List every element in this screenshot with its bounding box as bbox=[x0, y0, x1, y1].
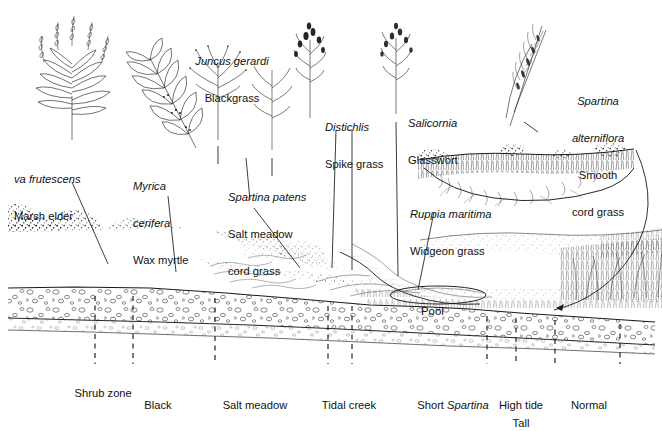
zone-line: Tall bbox=[492, 417, 550, 430]
plant-label-widgeon-grass: Ruppia maritima Widgeon grass bbox=[410, 183, 491, 282]
plant-scientific-name: Ruppia maritima bbox=[410, 208, 491, 220]
zone-label-salt-meadow-cordgrass: Salt meadow cordgrass bbox=[203, 374, 307, 431]
zone-line: Tidal creek bbox=[306, 399, 392, 412]
plant-scientific-name: Distichlis bbox=[325, 121, 383, 133]
specimen-marsh-elder bbox=[36, 16, 110, 140]
plant-scientific-name: Spartina patens bbox=[228, 191, 306, 203]
plant-scientific-name-line1: Myrica bbox=[133, 180, 189, 192]
zone-line: Normal bbox=[558, 399, 620, 412]
plant-common-name: Marsh elder bbox=[14, 210, 81, 222]
plant-common-name-line1: Salt meadow bbox=[228, 228, 306, 240]
zone-label-normal-low-tide: Normal low tide bbox=[558, 374, 620, 431]
zone-label-tidal-creek: Tidal creek Tall Spartina bbox=[306, 374, 392, 431]
specimen-spike-grass bbox=[294, 22, 326, 118]
plant-common-name: Wax myrtle bbox=[133, 254, 189, 266]
plant-label-spike-grass: Distichlis Spike grass bbox=[325, 96, 383, 195]
plant-scientific-name: va frutescens bbox=[14, 173, 81, 185]
salt-marsh-diagram: va frutescens Marsh elder Myrica cerifer… bbox=[0, 0, 662, 431]
plant-label-blackgrass: Juncus gerardi Blackgrass bbox=[178, 30, 286, 129]
plant-common-name: Blackgrass bbox=[178, 92, 286, 104]
plant-label-salt-meadow-cord-grass: Spartina patens Salt meadow cord grass bbox=[228, 166, 306, 302]
plant-common-name: Spike grass bbox=[325, 158, 383, 170]
plant-label-glasswort: Salicornia Glasswort bbox=[408, 92, 458, 191]
zone-line: Salt meadow bbox=[203, 399, 307, 412]
plant-scientific-name: Salicornia bbox=[408, 117, 458, 129]
zone-label-tall-spartina-zone: Tall Spartina alterniflora zone bbox=[492, 392, 550, 431]
zone-label-black-grass: Black grass bbox=[126, 374, 190, 431]
zone-line: Shrub zone bbox=[75, 387, 132, 399]
plant-common-name: Glasswort bbox=[408, 154, 458, 166]
plant-label-marsh-elder: va frutescens Marsh elder bbox=[14, 148, 81, 247]
plant-label-wax-myrtle: Myrica cerifera Wax myrtle bbox=[133, 155, 189, 291]
plant-common-name-line1: Smooth bbox=[545, 169, 651, 181]
plant-label-smooth-cord-grass: Spartina alterniflora Smooth cord grass bbox=[545, 70, 651, 244]
plant-scientific-name-line2: alterniflora bbox=[545, 132, 651, 144]
plant-scientific-name-line1: Spartina bbox=[545, 95, 651, 107]
pool-label: Pool bbox=[421, 305, 444, 317]
plant-common-name-line2: cord grass bbox=[545, 206, 651, 218]
plant-scientific-name: Juncus gerardi bbox=[178, 55, 286, 67]
plant-scientific-name-line2: cerifera bbox=[133, 217, 189, 229]
zone-line: Black bbox=[126, 399, 190, 412]
plant-common-name-line2: cord grass bbox=[228, 265, 306, 277]
plant-common-name: Widgeon grass bbox=[410, 245, 491, 257]
specimen-smooth-cord-grass bbox=[506, 24, 546, 126]
